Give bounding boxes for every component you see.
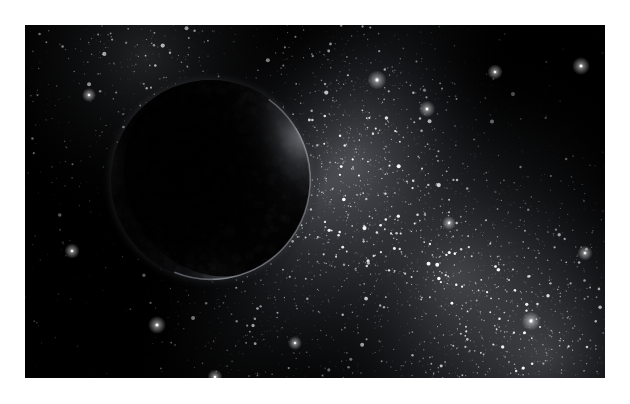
mat-border-left <box>0 0 25 404</box>
starfield-canvas <box>25 25 605 378</box>
mat-border-right <box>605 0 630 404</box>
mat-border-top <box>0 0 630 25</box>
space-photo-plate <box>25 25 605 378</box>
mat-border-bottom <box>0 378 630 404</box>
screenshot-stage <box>0 0 630 404</box>
